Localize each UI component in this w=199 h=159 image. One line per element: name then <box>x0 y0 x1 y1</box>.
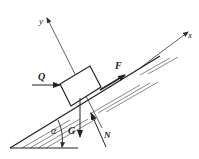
x-axis <box>140 32 188 68</box>
push-force-label: Q <box>38 71 45 82</box>
friction-force-label: F <box>114 60 122 71</box>
y-axis-label: y <box>38 16 43 26</box>
inclined-plane-diagram: x y Q F G N α <box>0 0 199 159</box>
angle-arc <box>58 120 63 147</box>
gravity-label: G <box>68 125 76 136</box>
friction-force-arrow <box>100 75 125 90</box>
normal-force-label: N <box>103 130 111 140</box>
angle-label: α <box>51 125 57 136</box>
x-axis-label: x <box>187 30 192 40</box>
